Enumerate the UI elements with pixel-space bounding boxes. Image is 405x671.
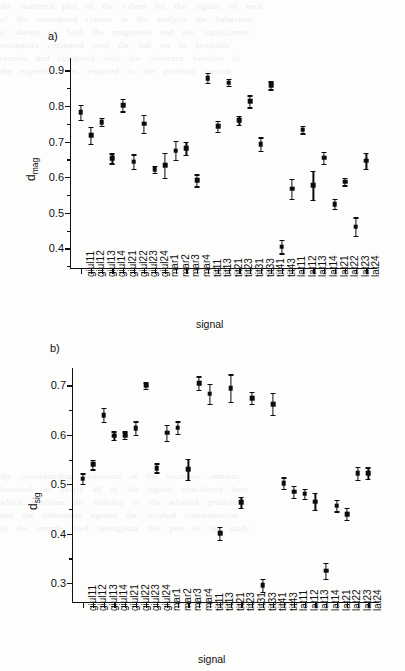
y-axis-title-a: dmag	[24, 158, 38, 181]
panel-a-error-cap-bottom	[152, 173, 157, 174]
panel-a-x-tick	[335, 269, 336, 274]
panel-a-marker	[343, 179, 348, 184]
panel-a-x-tick	[366, 269, 367, 274]
panel-b-error-cap-top	[207, 384, 212, 385]
panel-b-marker	[334, 503, 339, 508]
panel-a-error-cap-bottom	[364, 169, 369, 170]
panel-a-x-tick	[282, 269, 283, 274]
panel-a-y-tick-label: 0.9	[32, 64, 64, 76]
panel-a-error-cap-top	[322, 152, 327, 153]
panel-a-y-tick	[65, 177, 70, 178]
panel-a-x-tick	[250, 269, 251, 274]
panel-a-x-tick	[165, 269, 166, 274]
panel-b-x-tick-label: giul14	[118, 584, 129, 611]
panel-b-marker	[144, 384, 149, 389]
panel-b-x-tick-label: lat14	[330, 589, 341, 611]
panel-b-error-cap-bottom	[186, 480, 191, 481]
panel-b-x-tick	[263, 603, 264, 608]
panel-a-error-cap-bottom	[205, 83, 210, 84]
panel-b-marker	[197, 381, 202, 386]
panel-b-marker	[366, 471, 371, 476]
panel-b-marker	[112, 433, 117, 438]
panel-a-marker	[258, 142, 263, 147]
plot-area-a: 0.40.50.60.70.80.9giul11giul12giul13giul…	[0, 6, 405, 336]
panel-a-marker	[184, 146, 189, 151]
panel-a-x-tick-label: lat21	[339, 255, 350, 277]
panel-b-x-tick-label: mar3	[192, 588, 203, 611]
panel-a-dmag: a) 0.40.50.60.70.80.9giul11giul12giul13g…	[0, 6, 405, 336]
panel-a-x-tick	[176, 269, 177, 274]
panel-a-x-tick-label: mar3	[190, 254, 201, 277]
panel-b-y-tick	[67, 534, 72, 535]
panel-a-error-cap-top	[332, 199, 337, 200]
panel-b-marker	[80, 477, 85, 482]
panel-b-error-cap-bottom	[345, 520, 350, 521]
panel-a-error-cap-bottom	[99, 126, 104, 127]
panel-a-marker	[269, 83, 274, 88]
panel-a-error-cap-bottom	[343, 185, 348, 186]
panel-a-x-tick	[81, 269, 82, 274]
panel-b-x-tick	[104, 603, 105, 608]
panel-a-y-axis-line	[70, 58, 71, 269]
panel-a-y-tick-minor	[67, 195, 70, 196]
panel-b-error-cap-bottom	[334, 511, 339, 512]
panel-b-x-tick	[93, 603, 94, 608]
panel-a-x-tick	[208, 269, 209, 274]
panel-b-x-tick-label: giul23	[150, 584, 161, 611]
panel-b-x-tick-label: tit31	[256, 592, 267, 611]
panel-b-error-cap-bottom	[324, 579, 329, 580]
panel-b-marker	[292, 489, 297, 494]
panel-b-x-tick-label: lat13	[319, 589, 330, 611]
panel-a-x-tick-label: tit41	[275, 258, 286, 277]
panel-b-marker	[91, 462, 96, 467]
panel-a-marker	[301, 127, 306, 132]
panel-b-y-tick-minor	[69, 509, 72, 510]
panel-a-error-cap-bottom	[195, 186, 200, 187]
panel-a-x-tick	[123, 269, 124, 274]
panel-b-x-tick	[114, 603, 115, 608]
panel-a-x-tick	[144, 269, 145, 274]
panel-a-error-cap-bottom	[142, 133, 147, 134]
panel-a-x-tick	[134, 269, 135, 274]
panel-a-error-cap-bottom	[131, 169, 136, 170]
panel-a-error-cap-bottom	[163, 178, 168, 179]
panel-a-x-tick	[271, 269, 272, 274]
panel-a-marker	[364, 159, 369, 164]
panel-b-x-tick	[210, 603, 211, 608]
panel-b-dsig: b) 0.30.40.50.60.7giul11giul12giul13giul…	[0, 330, 405, 671]
panel-b-error-cap-bottom	[218, 540, 223, 541]
panel-b-error-cap-top	[292, 486, 297, 487]
x-axis-title-b: signal	[198, 653, 225, 665]
panel-a-x-tick-label: giul21	[127, 250, 138, 277]
panel-b-y-tick	[67, 484, 72, 485]
panel-a-error-cap-top	[120, 99, 125, 100]
panel-b-error-cap-top	[313, 493, 318, 494]
panel-a-error-cap-bottom	[216, 132, 221, 133]
panel-b-x-tick	[326, 603, 327, 608]
panel-b-error-cap-top	[228, 374, 233, 375]
panel-a-error-cap-top	[237, 116, 242, 117]
panel-a-x-tick	[345, 269, 346, 274]
panel-b-x-tick-label: giul11	[87, 585, 98, 611]
panel-a-marker	[248, 99, 253, 104]
panel-a-error-cap-top	[142, 115, 147, 116]
panel-a-marker	[205, 76, 210, 81]
panel-b-error-cap-bottom	[281, 489, 286, 490]
panel-b-x-tick-label: mar1	[171, 588, 182, 611]
panel-a-marker	[322, 155, 327, 160]
panel-a-x-tick	[356, 269, 357, 274]
panel-a-marker	[332, 202, 337, 207]
panel-b-error-cap-top	[249, 392, 254, 393]
panel-b-marker	[303, 491, 308, 496]
y-axis-title-b-main: d	[26, 503, 40, 510]
panel-b-error-cap-top	[271, 393, 276, 394]
y-axis-title-b: dsig	[26, 492, 40, 510]
panel-a-error-cap-bottom	[247, 107, 252, 108]
panel-a-x-tick-label: lat24	[370, 255, 381, 277]
panel-a-marker	[142, 122, 147, 127]
panel-b-error-cap-bottom	[260, 592, 265, 593]
panel-a-error-cap-top	[205, 73, 210, 74]
panel-a-x-tick	[197, 269, 198, 274]
panel-b-x-tick-label: tit33	[267, 592, 278, 611]
panel-b-x-tick	[305, 603, 306, 608]
